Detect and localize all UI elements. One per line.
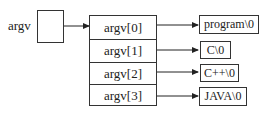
array-cell-2: argv[2] (90, 62, 156, 84)
argv-label: argv (8, 19, 31, 32)
string-box-2: C++\0 (200, 64, 239, 82)
string-box-1: C\0 (200, 41, 231, 59)
argv-array: argv[0] argv[1] argv[2] argv[3] (89, 15, 157, 106)
array-cell-3: argv[3] (90, 84, 156, 106)
string-box-3: JAVA\0 (199, 87, 247, 106)
string-box-0: program\0 (199, 15, 259, 34)
array-cell-0: argv[0] (90, 16, 156, 39)
argv-pointer-box (37, 10, 64, 43)
array-cell-1: argv[1] (90, 39, 156, 62)
